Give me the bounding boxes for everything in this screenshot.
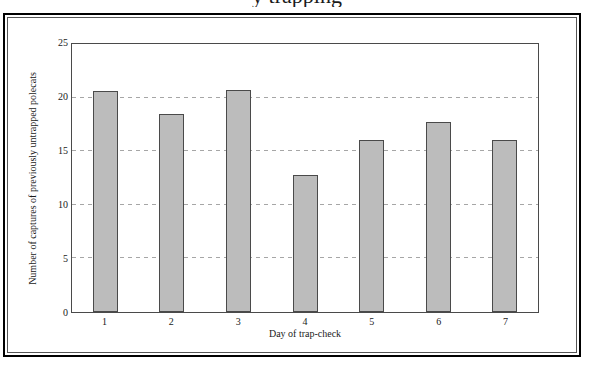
y-tick-label-25: 25 xyxy=(58,37,68,49)
bar-day-2 xyxy=(159,114,184,312)
bar-day-6 xyxy=(426,122,451,312)
y-axis-title: Number of captures of previously untrapp… xyxy=(24,43,40,313)
x-tick-label-1: 1 xyxy=(71,316,138,328)
y-tick-label-15: 15 xyxy=(58,145,68,157)
bar-day-3 xyxy=(226,90,251,312)
bar-day-4 xyxy=(293,175,318,312)
y-axis-title-text: Number of captures of previously untrapp… xyxy=(27,72,38,285)
gridline-15 xyxy=(72,150,538,151)
y-tick-label-5: 5 xyxy=(63,253,68,265)
y-tick-label-20: 20 xyxy=(58,91,68,103)
x-tick-label-4: 4 xyxy=(272,316,339,328)
gridline-20 xyxy=(72,97,538,98)
x-tick-label-2: 2 xyxy=(138,316,205,328)
x-tick-label-5: 5 xyxy=(338,316,405,328)
x-axis-tick-labels: 1234567 xyxy=(71,316,539,328)
figure-title-clip: y trapping xyxy=(0,0,594,7)
x-tick-label-3: 3 xyxy=(205,316,272,328)
x-tick-label-7: 7 xyxy=(472,316,539,328)
y-tick-label-10: 10 xyxy=(58,199,68,211)
bar-day-5 xyxy=(359,140,384,312)
x-tick-label-6: 6 xyxy=(405,316,472,328)
plot-area xyxy=(71,43,539,313)
bar-day-7 xyxy=(492,140,517,312)
bar-day-1 xyxy=(93,91,118,312)
y-tick-label-0: 0 xyxy=(63,307,68,319)
x-axis-title: Day of trap-check xyxy=(71,328,539,339)
figure-title-fragment: y trapping xyxy=(252,0,342,7)
page: y trapping 0510152025 Number of captures… xyxy=(0,0,594,370)
